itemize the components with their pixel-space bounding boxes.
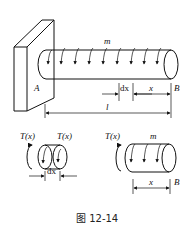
figure-caption: 图 12-14 [76, 213, 118, 224]
torsion-diagram: m A B dx x l T(x) T(x) dx T(x) m [0, 0, 193, 235]
end-label-b: B [174, 83, 180, 93]
dim-dx-label: dx [120, 83, 130, 93]
segment-torque-label: T(x) [105, 131, 120, 141]
segment-dim-x-label: x [148, 177, 153, 187]
right-torque-label: T(x) [57, 131, 72, 141]
segment-end-label: B [174, 177, 180, 187]
shaft-cylinder [38, 50, 178, 79]
element-dx-label: dx [47, 166, 57, 176]
dim-x-label: x [148, 83, 153, 93]
element-dx: T(x) T(x) dx [20, 131, 77, 181]
segment-x: T(x) m B x [105, 131, 180, 194]
dim-l-label: l [106, 102, 109, 112]
load-label-m: m [104, 36, 111, 46]
left-torque-label: T(x) [20, 131, 35, 141]
support-label-a: A [33, 83, 40, 93]
fixed-wall-support [14, 20, 54, 111]
segment-load-label: m [150, 131, 157, 141]
